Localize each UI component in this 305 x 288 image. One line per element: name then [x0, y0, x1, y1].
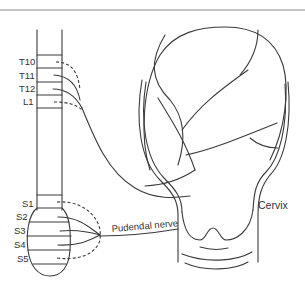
pain-pathways-diagram: T10 T11 T12 L1 S1 S2 S3 S4 S5 Pudendal n… [0, 0, 305, 288]
label-cervix: Cervix [258, 199, 289, 211]
spinal-cord [37, 30, 62, 210]
sacrum [27, 208, 71, 276]
label-t12: T12 [19, 83, 35, 94]
label-t11: T11 [19, 70, 35, 81]
label-s1: S1 [22, 198, 34, 209]
label-t10: T10 [19, 56, 35, 67]
label-l1: L1 [23, 96, 34, 107]
label-s5: S5 [17, 253, 29, 264]
label-s4: S4 [14, 239, 26, 250]
label-pudendal-nerve: Pudendal nerve [111, 217, 178, 234]
uterus [139, 27, 289, 269]
label-s3: S3 [14, 225, 26, 236]
thoracolumbar-nerves [53, 62, 190, 198]
label-s2: S2 [16, 211, 28, 222]
